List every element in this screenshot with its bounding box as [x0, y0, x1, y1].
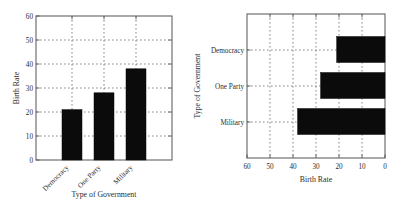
bar-military-vertical — [126, 69, 146, 160]
right-xtick-10: 10 — [358, 163, 366, 171]
left-y-axis-title: Birth Rate — [12, 71, 21, 104]
dual-bar-chart-figure: 60 50 40 30 20 10 0 Democracy One Party … — [0, 0, 404, 203]
left-chart-group: 60 50 40 30 20 10 0 Democracy One Party … — [12, 13, 172, 199]
figure-canvas: 60 50 40 30 20 10 0 Democracy One Party … — [0, 0, 404, 203]
left-y-ticklabels: 60 50 40 30 20 10 0 — [26, 13, 34, 165]
right-catlabel-democracy: Democracy — [211, 47, 245, 55]
bar-military-horizontal — [298, 109, 385, 135]
right-chart-group: 60 50 40 30 20 10 0 Democracy One Party … — [193, 14, 387, 184]
right-xtick-20: 20 — [335, 163, 343, 171]
right-catlabel-one-party: One Party — [215, 83, 244, 91]
right-xtick-0: 0 — [383, 163, 387, 171]
left-x-axis-title: Type of Government — [72, 190, 138, 199]
left-ytick-40: 40 — [26, 61, 34, 69]
right-xtick-60: 60 — [243, 163, 251, 171]
left-catlabel-military: Military — [112, 163, 135, 186]
left-ytick-60: 60 — [26, 13, 34, 21]
right-y-categorylabels: Democracy One Party Military — [211, 47, 245, 127]
left-x-categorylabels: Democracy One Party Military — [41, 163, 134, 192]
right-xtick-30: 30 — [312, 163, 320, 171]
right-catlabel-military: Military — [220, 119, 244, 127]
left-ytick-0: 0 — [29, 157, 33, 165]
right-xtick-50: 50 — [266, 163, 274, 171]
bar-democracy-horizontal — [337, 37, 385, 63]
left-catlabel-democracy: Democracy — [41, 163, 70, 192]
right-x-axis-title: Birth Rate — [300, 175, 333, 184]
bar-one-party-vertical — [94, 93, 114, 160]
right-y-axis-title: Type of Government — [193, 53, 202, 119]
right-x-ticklabels: 60 50 40 30 20 10 0 — [243, 163, 387, 171]
right-xtick-40: 40 — [289, 163, 297, 171]
left-ytick-30: 30 — [26, 85, 34, 93]
left-ytick-50: 50 — [26, 37, 34, 45]
left-ytick-10: 10 — [26, 133, 34, 141]
bar-one-party-horizontal — [321, 73, 385, 99]
left-ytick-20: 20 — [26, 109, 34, 117]
bar-democracy-vertical — [62, 110, 82, 160]
left-catlabel-one-party: One Party — [76, 163, 102, 189]
